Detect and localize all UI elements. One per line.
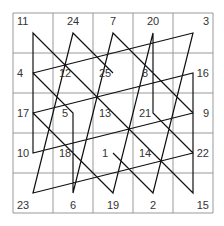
cell-number: 22: [197, 147, 209, 159]
cell-number: 16: [197, 67, 209, 79]
cell-number: 10: [17, 147, 29, 159]
cell-number: 23: [17, 199, 29, 211]
cell-number: 3: [203, 15, 209, 27]
cell-number: 2: [150, 199, 156, 211]
cell-number: 17: [17, 107, 29, 119]
cell-number: 21: [139, 107, 151, 119]
cell-number: 25: [99, 67, 111, 79]
cell-number: 13: [99, 107, 111, 119]
number-grid-diagram: 1124720341225816175132191018114222361921…: [0, 0, 224, 226]
cell-number: 9: [203, 107, 209, 119]
cell-number: 1: [102, 147, 108, 159]
cell-number: 12: [59, 67, 71, 79]
cell-number: 24: [67, 15, 79, 27]
cell-number: 19: [107, 199, 119, 211]
cell-number: 6: [70, 199, 76, 211]
cell-number: 4: [17, 67, 23, 79]
cell-number: 5: [62, 107, 68, 119]
cell-number: 15: [197, 199, 209, 211]
cell-number: 14: [139, 147, 151, 159]
cell-number: 8: [142, 67, 148, 79]
knight-path-lines: [33, 33, 193, 193]
cell-number: 20: [147, 15, 159, 27]
cell-number: 11: [17, 15, 28, 27]
cell-number: 7: [110, 15, 116, 27]
cell-number: 18: [59, 147, 71, 159]
